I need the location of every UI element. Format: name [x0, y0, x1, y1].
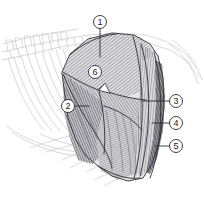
anatomical-figure: 1 2 3 4 5: [0, 0, 204, 209]
callout-5-circle[interactable]: [170, 140, 183, 153]
callout-6-circle[interactable]: [89, 66, 102, 79]
callout-4-circle[interactable]: [170, 117, 183, 130]
callout-1-circle[interactable]: [94, 16, 107, 29]
callout-2-circle[interactable]: [62, 100, 75, 113]
callout-6[interactable]: 6: [89, 66, 102, 79]
callout-3-circle[interactable]: [170, 95, 183, 108]
figure-canvas: 1 2 3 4 5: [0, 0, 204, 209]
